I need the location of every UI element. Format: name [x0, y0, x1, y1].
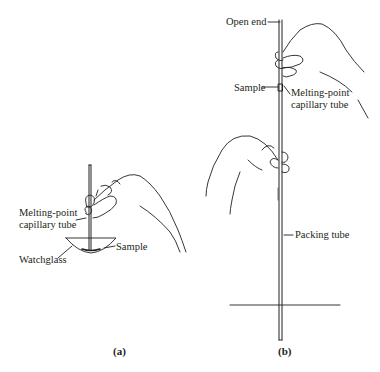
panel-b-illustration	[206, 20, 368, 340]
label-b-sample: Sample	[234, 82, 266, 94]
label-b-capillary-line2: capillary tube	[291, 99, 348, 111]
diagram-canvas	[0, 0, 380, 372]
panel-a-illustration	[66, 165, 186, 253]
caption-a: (a)	[113, 345, 126, 357]
caption-b: (b)	[278, 345, 291, 357]
label-a-watchglass: Watchglass	[19, 254, 67, 266]
label-b-packing-tube: Packing tube	[295, 229, 350, 241]
label-a-capillary-line1: Melting-point	[19, 207, 77, 219]
label-a-sample: Sample	[116, 241, 148, 253]
label-b-capillary-line1: Melting-point	[291, 87, 349, 99]
label-b-open-end: Open end	[226, 16, 267, 28]
label-a-capillary-line2: capillary tube	[19, 219, 76, 231]
